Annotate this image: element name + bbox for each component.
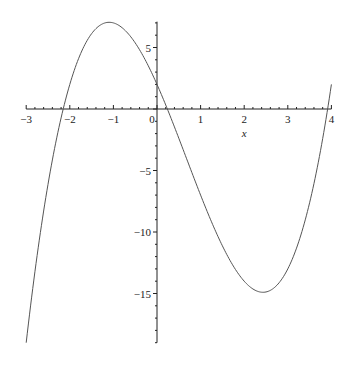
function-curve xyxy=(26,22,331,342)
y-tick-label: −10 xyxy=(134,226,152,238)
x-tick-label: −1 xyxy=(108,113,120,125)
x-tick-label: 2 xyxy=(241,113,247,125)
y-tick-label: 5 xyxy=(146,42,152,54)
x-axis-label: x xyxy=(241,127,247,139)
x-tick-label: 0 xyxy=(149,113,155,125)
y-tick-label: −15 xyxy=(134,288,152,300)
plot-area: −3−2−101234x5−5−10−15 xyxy=(0,0,353,365)
axes: −3−2−101234x5−5−10−15 xyxy=(20,22,334,343)
x-tick-label: −2 xyxy=(64,113,76,125)
x-tick-label: 3 xyxy=(285,113,291,125)
y-tick-label: −5 xyxy=(139,165,151,177)
x-tick-label: −3 xyxy=(20,113,32,125)
x-tick-label: 1 xyxy=(198,113,204,125)
x-tick-label: 4 xyxy=(329,113,335,125)
